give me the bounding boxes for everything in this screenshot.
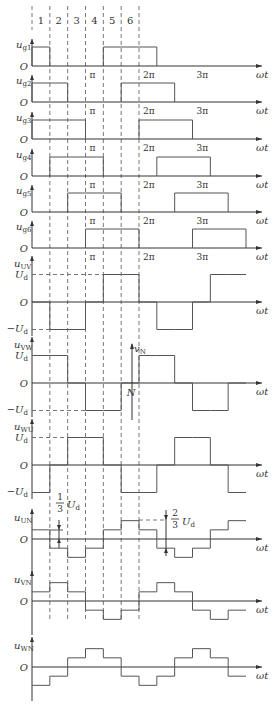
origin-label: O (20, 596, 28, 607)
x-axis-label: ωt (256, 105, 269, 116)
annotations: vNN13Ud23Ud (50, 343, 195, 556)
neutral-point-label: N (126, 387, 137, 398)
tick-label: 3π (197, 70, 209, 80)
phase-voltage-axis: ωtO (20, 637, 269, 701)
segment-label: 1 (38, 15, 44, 26)
gate-pulse (175, 193, 229, 212)
svg-text:3: 3 (172, 520, 178, 530)
axis-arrow-icon (256, 599, 262, 603)
one-third-ud-text: Ud (67, 499, 80, 512)
tick-label: 3π (197, 180, 209, 190)
gate-signal-g3: ωtOug3π2π3π (16, 112, 269, 153)
tick-label: π (90, 252, 96, 262)
origin-label: O (20, 297, 28, 308)
gate-signal-g6: ωtOug6π2π3π (16, 221, 269, 262)
neutral-axis-label: vN (134, 343, 146, 356)
tick-label: π (90, 143, 96, 153)
gate-signal-g2: ωtOug2π2π3π (16, 75, 269, 116)
segment-label: 5 (109, 15, 115, 26)
segment-label: 2 (56, 15, 62, 26)
origin-label: O (20, 61, 28, 72)
phase-voltage-VN: ωtOuVN (14, 571, 269, 635)
axis-arrow-icon (256, 381, 262, 385)
axis-arrow-icon (256, 246, 262, 250)
segment-label: 6 (127, 15, 133, 26)
tick-label: 2π (143, 180, 155, 190)
origin-label: O (20, 97, 28, 108)
x-axis-label: ωt (256, 542, 269, 553)
origin-label: O (20, 378, 28, 389)
axis-arrow-icon (256, 174, 262, 178)
origin-label: O (20, 171, 28, 182)
x-axis-label: ωt (256, 69, 269, 80)
axis-arrow-icon (256, 100, 262, 104)
axis-arrow-icon (256, 64, 262, 68)
gate-pulse (32, 47, 50, 66)
svg-text:1: 1 (57, 492, 63, 502)
phase-voltage-UN: ωtOuUN (14, 509, 269, 573)
line-voltage-axis: ωtO (20, 419, 269, 499)
tick-label: 2π (143, 143, 155, 153)
tick-label: 3π (197, 143, 209, 153)
tick-label: π (90, 70, 96, 80)
signal-label: ug2 (16, 75, 31, 88)
neutral-axis: vNN (126, 343, 146, 420)
axis-arrow-icon (256, 137, 262, 141)
gate-signal-g1: ωtOug1π2π3π (16, 39, 269, 80)
tick-label: 2π (143, 252, 155, 262)
inverter-waveform-diagram: 123456 ωtOug1π2π3πωtOug2π2π3πωtOug3π2π3π… (0, 0, 273, 716)
x-axis-label: ωt (256, 604, 269, 615)
waveform-plots: ωtOug1π2π3πωtOug2π2π3πωtOug3π2π3πωtOug4π… (7, 39, 269, 701)
tick-label: π (90, 106, 96, 116)
gate-pulse (193, 229, 247, 248)
axis-arrow-icon (256, 210, 262, 214)
svg-text:2: 2 (172, 508, 178, 518)
phase-voltage-WN: ωtOuWN (14, 637, 269, 701)
axis-arrow-icon (30, 509, 34, 514)
negative-level-label: −Ud (7, 323, 29, 336)
origin-label: O (20, 134, 28, 145)
gate-pulse (68, 193, 122, 212)
origin-label: O (20, 662, 28, 673)
axis-arrow-icon (30, 637, 34, 642)
tick-label: 3π (197, 252, 209, 262)
origin-label: O (20, 460, 28, 471)
signal-label: ug1 (16, 39, 31, 52)
line-voltage-WU: ωtOuWUUd−Ud (7, 419, 269, 499)
origin-label: O (20, 207, 28, 218)
gate-pulse (86, 229, 140, 248)
tick-label: 2π (143, 106, 155, 116)
signal-label: ug4 (16, 149, 32, 162)
gate-pulse (32, 120, 86, 139)
x-axis-label: ωt (256, 386, 269, 397)
segment-label: 3 (73, 15, 79, 26)
x-axis-label: ωt (256, 142, 269, 153)
origin-label: O (20, 243, 28, 254)
x-axis-label: ωt (256, 468, 269, 479)
signal-label: uUN (14, 512, 32, 525)
signal-label: uVN (14, 574, 32, 587)
tick-label: 2π (143, 70, 155, 80)
tick-label: 3π (197, 216, 209, 226)
signal-label: ug6 (16, 221, 32, 234)
tick-label: 2π (143, 216, 155, 226)
gate-pulse (103, 47, 156, 66)
tick-label: π (90, 180, 96, 190)
axis-arrow-icon (256, 537, 262, 541)
gate-pulse (157, 157, 211, 176)
axis-arrow-icon (30, 256, 34, 261)
signal-label: ug3 (16, 112, 31, 125)
x-axis-label: ωt (256, 670, 269, 681)
one-third-ud-annotation: 13Ud (50, 492, 80, 548)
axis-arrow-icon (30, 571, 34, 576)
x-axis-label: ωt (256, 215, 269, 226)
negative-level-label: −Ud (7, 404, 29, 417)
line-voltage-axis: ωtO (20, 256, 269, 336)
two-thirds-ud-annotation: 23Ud (139, 508, 195, 556)
gate-pulse (50, 157, 104, 176)
x-axis-label: ωt (256, 305, 269, 316)
signal-label: ug5 (16, 185, 31, 198)
negative-level-label: −Ud (7, 486, 29, 499)
phase-voltage-axis: ωtO (20, 571, 269, 635)
axis-arrow-icon (256, 463, 262, 467)
